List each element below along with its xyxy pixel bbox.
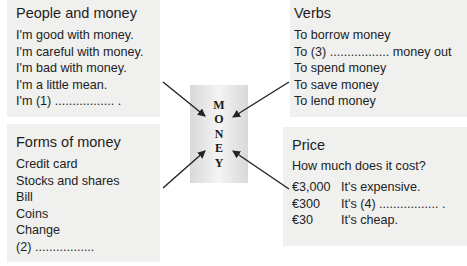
arrow-icon: [233, 82, 289, 117]
arrow-icon: [233, 151, 289, 189]
arrows: [0, 0, 467, 266]
arrow-icon: [163, 82, 205, 116]
arrow-icon: [163, 151, 205, 188]
